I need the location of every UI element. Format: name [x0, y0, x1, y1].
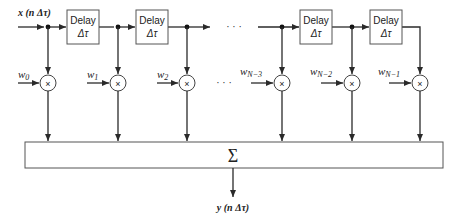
- svg-text:Δτ: Δτ: [380, 28, 393, 39]
- weight-label-n-3: wN−3: [240, 65, 262, 79]
- delay-block-2: Delay Δτ: [136, 10, 168, 44]
- input-label: x (n Δτ): [17, 7, 51, 19]
- svg-text:×: ×: [115, 79, 120, 89]
- svg-text:Δτ: Δτ: [310, 28, 323, 39]
- svg-text:×: ×: [45, 79, 50, 89]
- weight-labels: w0 w1 w2 wN−3 wN−2 wN−1: [18, 65, 400, 82]
- multiplier-icon: ×: [110, 75, 126, 91]
- svg-text:×: ×: [184, 79, 189, 89]
- svg-text:Delay: Delay: [303, 15, 329, 26]
- ellipsis-middle: · · ·: [216, 77, 232, 88]
- multiplier-icon: ×: [344, 75, 360, 91]
- delay-block-4: Delay Δτ: [370, 10, 402, 44]
- output-label: y (n Δτ): [216, 202, 249, 214]
- weight-label-2: w2: [157, 68, 168, 82]
- weight-label-n-2: wN−2: [310, 65, 332, 79]
- svg-text:×: ×: [417, 79, 422, 89]
- svg-text:Delay: Delay: [70, 15, 96, 26]
- svg-text:Delay: Delay: [373, 15, 399, 26]
- svg-text:×: ×: [279, 79, 284, 89]
- tapped-delay-line-diagram: x (n Δτ) · · · Delay Δτ Delay Δτ Delay Δ…: [0, 0, 450, 223]
- multiplier-icon: ×: [179, 75, 195, 91]
- multiplier-icon: ×: [274, 75, 290, 91]
- ellipsis-top: · · ·: [226, 21, 242, 32]
- delay-block-3: Delay Δτ: [300, 10, 332, 44]
- weight-label-1: w1: [87, 68, 98, 82]
- weight-label-n-1: wN−1: [378, 65, 400, 79]
- svg-text:×: ×: [349, 79, 354, 89]
- summation-block: Σ: [25, 142, 443, 168]
- product-lines: [48, 91, 420, 141]
- weight-label-0: w0: [18, 68, 29, 82]
- sigma-icon: Σ: [228, 146, 238, 166]
- multiplier-icon: ×: [40, 75, 56, 91]
- svg-text:Delay: Delay: [139, 15, 165, 26]
- delay-block-1: Delay Δτ: [67, 10, 99, 44]
- svg-text:Δτ: Δτ: [146, 28, 159, 39]
- multiplier-icon: ×: [412, 75, 428, 91]
- svg-text:Δτ: Δτ: [77, 28, 90, 39]
